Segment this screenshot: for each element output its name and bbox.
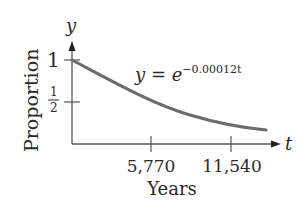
curve-equation: y = e−0.00012t — [134, 63, 242, 85]
y-tick-label-half-num: 1 — [50, 85, 58, 99]
x-axis-label: Years — [146, 178, 197, 199]
x-axis-symbol: t — [285, 133, 293, 154]
y-axis-symbol: y — [65, 15, 77, 36]
y-tick-label-half-den: 2 — [50, 101, 58, 115]
decay-chart: y t 1 1 2 Proportion 5,770 11,540 Years … — [0, 0, 306, 211]
x-tick-label-5770: 5,770 — [127, 156, 176, 176]
y-tick-label-1: 1 — [47, 48, 60, 72]
x-tick-label-11540: 11,540 — [202, 156, 261, 176]
x-axis-arrow-icon — [271, 141, 281, 148]
equation-exponent: −0.00012t — [182, 63, 242, 76]
y-axis-arrow-icon — [69, 41, 76, 51]
y-axis-label: Proportion — [20, 49, 42, 152]
